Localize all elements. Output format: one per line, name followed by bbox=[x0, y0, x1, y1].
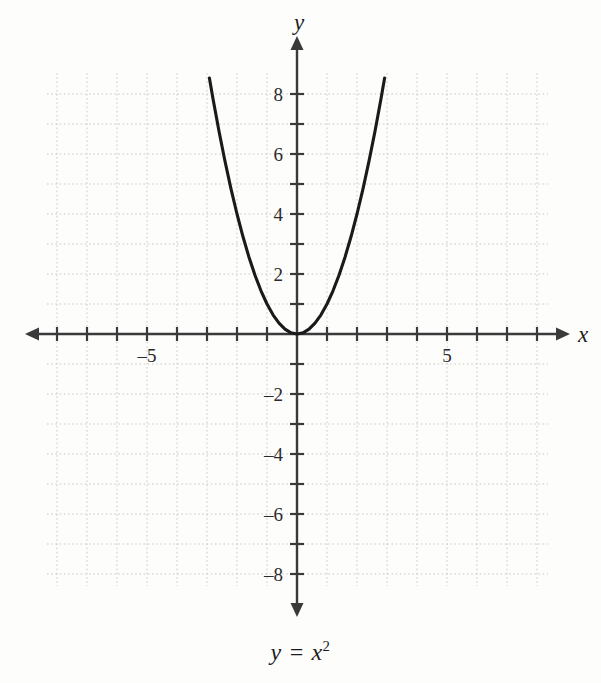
y-tick-label: –6 bbox=[263, 504, 283, 525]
y-tick-label: 8 bbox=[274, 84, 284, 105]
y-tick-label: 4 bbox=[274, 204, 284, 225]
y-axis-label: y bbox=[292, 10, 305, 35]
x-tick-label: –5 bbox=[137, 345, 157, 366]
caption-lhs: y = x bbox=[271, 639, 323, 665]
x-axis-label: x bbox=[577, 322, 589, 347]
caption-exponent: 2 bbox=[323, 638, 331, 654]
y-axis-arrow-up bbox=[291, 36, 304, 50]
y-tick-label: –4 bbox=[263, 444, 284, 465]
equation-caption: y = x2 bbox=[0, 638, 601, 666]
y-tick-label: 2 bbox=[274, 264, 284, 285]
x-axis-arrow-right bbox=[556, 328, 570, 341]
y-tick-label: –8 bbox=[263, 564, 283, 585]
graph-figure: –558642–2–4–6–8 x y y = x2 bbox=[0, 0, 601, 683]
y-tick-label: 6 bbox=[274, 144, 284, 165]
y-axis-arrow-down bbox=[291, 603, 304, 617]
y-tick-label: –2 bbox=[263, 384, 283, 405]
coordinate-plane-svg: –558642–2–4–6–8 x y bbox=[0, 0, 601, 683]
x-tick-label: 5 bbox=[442, 345, 452, 366]
x-axis-arrow-left bbox=[25, 328, 39, 341]
